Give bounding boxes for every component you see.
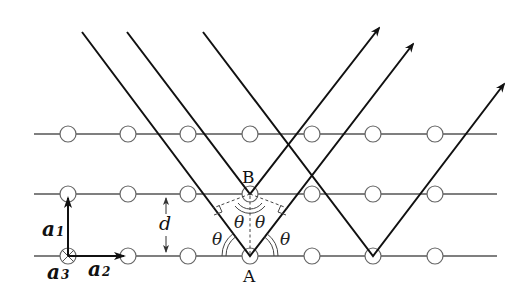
atom xyxy=(304,248,320,264)
atom xyxy=(304,126,320,142)
basis-vectors xyxy=(68,198,124,256)
label-a2: a2 xyxy=(88,257,110,281)
label-b: B xyxy=(242,167,255,187)
atom xyxy=(60,126,76,142)
label-theta-right: θ xyxy=(280,229,290,249)
label-a1: a1 xyxy=(42,217,64,241)
atom xyxy=(427,186,443,202)
ray-3 xyxy=(203,32,504,256)
atom xyxy=(120,186,136,202)
atom xyxy=(120,126,136,142)
bragg-diagram: B A d θ θ θ θ a1 a2 a3 xyxy=(0,0,529,306)
atom xyxy=(180,186,196,202)
ray-1 xyxy=(82,32,413,256)
label-theta-left: θ xyxy=(212,229,222,249)
x-rays xyxy=(82,28,504,256)
label-d: d xyxy=(159,212,171,234)
perpendicular-right xyxy=(250,194,287,208)
atom xyxy=(180,126,196,142)
atom xyxy=(365,126,381,142)
atom xyxy=(365,186,381,202)
atom xyxy=(180,248,196,264)
label-a: A xyxy=(242,266,256,286)
atom xyxy=(242,126,258,142)
label-theta-mid-left: θ xyxy=(234,212,244,232)
atom xyxy=(427,126,443,142)
atom xyxy=(427,248,443,264)
atom xyxy=(304,186,320,202)
perpendicular-left xyxy=(213,194,250,208)
label-theta-mid-right: θ xyxy=(255,212,265,232)
